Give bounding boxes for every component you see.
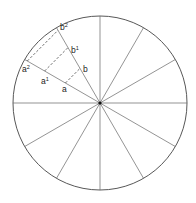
dashed-a-b	[65, 68, 80, 83]
label-a: a	[62, 84, 67, 94]
radius-30	[100, 60, 175, 104]
label-b1: b1	[71, 45, 79, 55]
dashed-a1-b1	[45, 48, 68, 71]
radius-240	[57, 103, 101, 178]
sector-circle-diagram: b2 b1 b a2 a1 a	[0, 0, 196, 203]
radius-300	[100, 103, 144, 178]
label-a1: a1	[41, 76, 49, 86]
label-b2: b2	[60, 22, 68, 32]
dashed-connectors	[27, 30, 80, 83]
radius-150	[25, 60, 100, 104]
radius-210	[25, 103, 100, 147]
radius-60	[100, 28, 144, 103]
dashed-a2-b2	[27, 30, 58, 61]
label-b: b	[83, 64, 88, 74]
label-a2: a2	[22, 64, 30, 74]
radius-330	[100, 103, 175, 147]
center-dot	[98, 101, 101, 104]
